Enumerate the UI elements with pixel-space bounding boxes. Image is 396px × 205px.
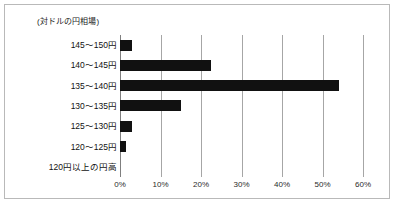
- tick-label: 10%: [152, 180, 168, 189]
- tick-label: 60%: [355, 180, 371, 189]
- value-axis-tick-labels: 0%10%20%30%40%50%60%: [120, 180, 370, 194]
- category-label: 135〜140円: [71, 81, 117, 91]
- category-label: 145〜150円: [71, 40, 117, 50]
- bar-row: [120, 136, 126, 156]
- tick-label: 30%: [233, 180, 249, 189]
- gridline: [282, 35, 283, 177]
- bar-row: [120, 55, 211, 75]
- category-label: 125〜130円: [71, 121, 117, 131]
- gridline: [323, 35, 324, 177]
- gridline: [242, 35, 243, 177]
- category-label: 120円以上の円高: [49, 162, 117, 172]
- tick-label: 50%: [314, 180, 330, 189]
- bar: [120, 40, 132, 51]
- bar-row: [120, 35, 132, 55]
- bar: [120, 80, 339, 91]
- bar-row: [120, 76, 339, 96]
- chart-title: (対ドルの円相場): [37, 15, 99, 26]
- bar-row: [120, 116, 132, 136]
- bar: [120, 121, 132, 132]
- tick-label: 0%: [114, 180, 126, 189]
- tick-label: 20%: [193, 180, 209, 189]
- plot-area: [120, 35, 363, 177]
- gridline: [363, 35, 364, 177]
- chart-frame: (対ドルの円相場) 145〜150円140〜145円135〜140円130〜13…: [4, 4, 390, 199]
- category-label: 120〜125円: [71, 142, 117, 152]
- category-label: 140〜145円: [71, 60, 117, 70]
- category-axis-labels: 145〜150円140〜145円135〜140円130〜135円125〜130円…: [5, 35, 117, 177]
- bar: [120, 100, 181, 111]
- bar: [120, 141, 126, 152]
- bar: [120, 60, 211, 71]
- category-label: 130〜135円: [71, 101, 117, 111]
- bar-row: [120, 96, 181, 116]
- tick-label: 40%: [274, 180, 290, 189]
